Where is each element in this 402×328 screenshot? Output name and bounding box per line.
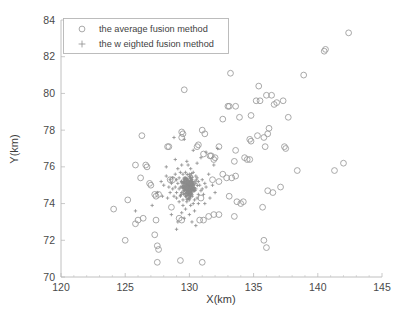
x-tick-label: 130	[181, 281, 199, 293]
legend[interactable]: the average fusion method the w eighted …	[64, 19, 229, 54]
y-tick-label: 82	[43, 50, 55, 62]
data-point-plus	[175, 196, 178, 199]
data-point-circle	[153, 217, 159, 223]
data-point-plus	[175, 191, 178, 194]
scatter-plot-figure: 120125130135140145 7072747678808284 X(km…	[0, 0, 402, 328]
data-point-circle	[257, 98, 263, 104]
data-point-plus	[192, 202, 195, 205]
data-point-circle	[261, 135, 267, 141]
x-tick-label: 135	[245, 281, 263, 293]
data-point-plus	[167, 185, 170, 188]
y-tick-label: 78	[43, 124, 55, 136]
data-point-circle	[255, 133, 261, 139]
data-point-plus	[190, 220, 193, 223]
data-point-circle	[152, 232, 158, 238]
data-point-circle	[195, 142, 201, 148]
data-point-circle	[237, 114, 243, 120]
data-point-plus	[194, 224, 197, 227]
data-point-plus	[192, 149, 195, 152]
data-point-plus	[203, 182, 206, 185]
data-point-circle	[321, 48, 327, 54]
data-point-circle	[265, 188, 271, 194]
y-tick-label: 76	[43, 160, 55, 172]
data-point-circle	[278, 184, 284, 190]
data-point-plus	[185, 160, 188, 163]
data-point-plus	[212, 163, 215, 166]
legend-label-weighted-fusion: the w eighted fusion method	[99, 39, 214, 49]
data-point-circle	[138, 175, 144, 181]
data-point-circle	[247, 136, 253, 142]
data-point-circle	[148, 182, 154, 188]
x-tick-labels: 120125130135140145	[52, 281, 391, 293]
series-average-fusion-method	[111, 30, 352, 265]
data-point-circle	[231, 214, 237, 220]
data-point-plus	[184, 171, 187, 174]
data-point-plus	[180, 211, 183, 214]
data-point-circle	[181, 87, 187, 93]
data-point-plus	[181, 204, 184, 207]
data-point-plus	[170, 213, 173, 216]
data-point-circle	[133, 162, 139, 168]
data-point-circle	[341, 160, 347, 166]
data-point-plus	[211, 184, 214, 187]
data-point-plus	[180, 163, 183, 166]
data-point-plus	[181, 173, 184, 176]
data-point-circle	[201, 217, 207, 223]
data-point-circle	[143, 162, 149, 168]
data-point-plus	[177, 176, 180, 179]
data-point-circle	[233, 103, 239, 109]
data-point-plus	[186, 173, 189, 176]
data-point-circle	[144, 164, 150, 170]
data-point-plus	[197, 202, 200, 205]
data-point-circle	[248, 113, 254, 119]
data-point-plus	[204, 150, 207, 153]
y-tick-labels: 7072747678808284	[43, 14, 55, 283]
data-point-circle	[262, 144, 268, 150]
data-point-circle	[226, 193, 232, 199]
data-point-plus	[203, 202, 206, 205]
data-point-plus	[175, 228, 178, 231]
data-point-circle	[169, 204, 175, 210]
data-point-circle	[154, 259, 160, 265]
data-point-circle	[111, 206, 117, 212]
x-tick-label: 145	[373, 281, 391, 293]
data-point-plus	[168, 178, 171, 181]
data-point-plus	[208, 196, 211, 199]
data-point-plus	[188, 213, 191, 216]
data-point-circle	[280, 98, 286, 104]
data-point-circle	[122, 237, 128, 243]
data-point-plus	[197, 180, 200, 183]
data-point-plus	[165, 174, 168, 177]
data-point-circle	[139, 133, 145, 139]
data-point-plus	[204, 185, 207, 188]
data-point-circle	[346, 30, 352, 36]
data-point-plus	[179, 171, 182, 174]
data-point-circle	[178, 258, 184, 264]
data-point-plus	[168, 191, 171, 194]
data-point-plus	[162, 184, 165, 187]
x-tick-label: 120	[52, 281, 70, 293]
data-point-plus	[201, 178, 204, 181]
data-point-circle	[228, 70, 234, 76]
data-point-circle	[283, 146, 289, 152]
data-point-plus	[193, 198, 196, 201]
legend-label-average-fusion: the average fusion method	[99, 24, 208, 34]
data-point-circle	[231, 158, 237, 164]
data-point-circle	[260, 204, 266, 210]
data-point-circle	[220, 171, 226, 177]
data-point-plus	[176, 167, 179, 170]
data-point-plus	[172, 136, 175, 139]
x-tick-label: 140	[309, 281, 327, 293]
data-point-circle	[216, 179, 222, 185]
y-tick-label: 84	[43, 14, 55, 26]
data-point-plus	[193, 209, 196, 212]
y-tick-label: 72	[43, 234, 55, 246]
x-tick-label: 125	[116, 281, 134, 293]
data-point-plus	[159, 180, 162, 183]
data-point-circle	[266, 125, 272, 131]
y-tick-label: 80	[43, 87, 55, 99]
data-point-plus	[165, 165, 168, 168]
data-point-plus	[195, 161, 198, 164]
data-point-circle	[199, 259, 205, 265]
data-point-circle	[156, 247, 162, 253]
